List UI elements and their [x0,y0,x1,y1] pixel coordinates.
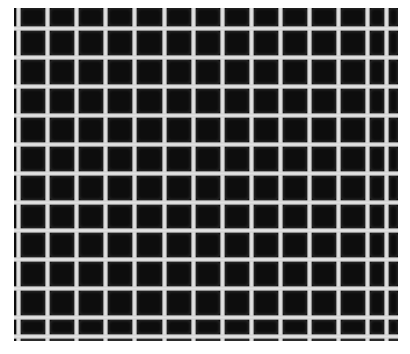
mesh-cell [254,262,278,286]
mesh-cell [21,147,45,171]
mesh-cell [79,31,103,55]
mesh-cell [79,118,103,142]
mesh-cell [21,8,45,26]
mesh-cell [79,339,103,342]
mesh-cell [21,31,45,55]
mesh-cell [21,60,45,84]
mesh-cell [254,31,278,55]
mesh-cell [137,205,162,228]
mesh-cell [283,60,307,84]
mesh-cell [225,320,249,334]
mesh-cell [21,233,45,257]
mesh-cell [108,233,132,257]
mesh-cell [21,262,45,286]
mesh-cell [370,60,384,84]
mesh-cell [196,205,220,228]
mesh-cell [137,60,162,84]
mesh-cell [283,291,307,315]
mesh-cell [108,205,132,228]
mesh-cell [283,89,307,113]
grid-line-horizontal [14,286,398,291]
mesh-cell [312,205,336,228]
mesh-cell [79,8,103,26]
mesh-cell [254,60,278,84]
mesh-cell [137,233,162,257]
mesh-cell [167,262,191,286]
mesh-cell [79,205,103,228]
mesh-cell [108,176,132,200]
grid-line-horizontal [14,26,398,31]
mesh-cell [196,118,220,142]
mesh-cell [283,320,307,334]
mesh-cell [341,89,365,113]
mesh-cell [79,233,103,257]
mesh-cell [312,89,336,113]
mesh-cell [283,339,307,342]
mesh-cell [108,31,132,55]
mesh-cell [312,233,336,257]
mesh-cell [137,89,162,113]
mesh-cell [225,205,249,228]
mesh-cell [225,89,249,113]
grid-line-horizontal [14,113,398,118]
mesh-cell [137,31,162,55]
mesh-cell [389,118,399,142]
mesh-cell [254,8,278,26]
mesh-cell [389,205,399,228]
mesh-cell [50,205,74,228]
mesh-cell [370,147,384,171]
mesh-cell [196,176,220,200]
mesh-cell [283,118,307,142]
mesh-cell [50,291,74,315]
mesh-cell [389,8,399,26]
mesh-cell [341,262,365,286]
mesh-cell [283,31,307,55]
mesh-cell [389,233,399,257]
mesh-cell [50,60,74,84]
mesh-cell [389,60,399,84]
mesh-cell [283,8,307,26]
mesh-cell [389,262,399,286]
mesh-cell [225,118,249,142]
mesh-cell [370,118,384,142]
grid-line-horizontal [14,142,398,147]
mesh-cell [312,320,336,334]
mesh-cell [108,89,132,113]
mesh-cell [312,8,336,26]
mesh-cell [389,147,399,171]
image-canvas [0,0,410,354]
grid-line-horizontal [14,315,398,320]
grid-line-horizontal [14,171,398,176]
mesh-cell [312,31,336,55]
mesh-cell [50,320,74,334]
mesh-grid-photo [14,8,398,341]
mesh-cell [370,205,384,228]
mesh-cell [254,205,278,228]
grid-line-horizontal [14,84,398,89]
mesh-cell [50,147,74,171]
mesh-cell [50,31,74,55]
mesh-cell [225,339,249,342]
mesh-cell [108,118,132,142]
mesh-cell [225,262,249,286]
mesh-cell [254,291,278,315]
mesh-cell [137,320,162,334]
mesh-cell [167,176,191,200]
mesh-cell [370,233,384,257]
mesh-cell [254,339,278,342]
mesh-cell [312,60,336,84]
mesh-cell [196,60,220,84]
mesh-cell [79,147,103,171]
mesh-cell [341,31,365,55]
mesh-cell [225,233,249,257]
mesh-cell [389,31,399,55]
mesh-cell [167,31,191,55]
mesh-cell [283,262,307,286]
mesh-cell [196,233,220,257]
mesh-cell [167,320,191,334]
mesh-cell [283,176,307,200]
mesh-cell [50,176,74,200]
mesh-cell [370,31,384,55]
mesh-cell [21,89,45,113]
mesh-cell [341,320,365,334]
